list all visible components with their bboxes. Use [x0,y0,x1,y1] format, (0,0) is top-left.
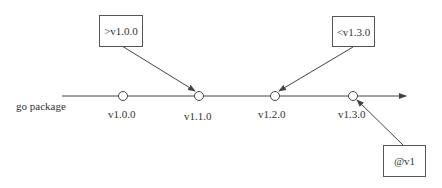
version-label: v1.0.0 [108,108,136,120]
version-label: v1.3.0 [338,108,366,120]
constraint-box-at: @v1 [383,145,426,177]
arrow-at-v1 [357,100,403,145]
arrow-gt-v1.0.0 [122,46,195,91]
timeline-label: go package [16,100,66,112]
version-node-v1.1.0 [195,92,204,101]
timeline-diagram [0,0,442,188]
constraint-box-lt: <v1.3.0 [332,16,375,47]
arrow-lt-v1.3.0 [279,47,353,91]
constraint-box-gt: >v1.0.0 [99,15,143,47]
version-label: v1.2.0 [258,108,286,120]
version-node-v1.3.0 [349,92,358,101]
version-node-v1.2.0 [271,92,280,101]
version-node-v1.0.0 [119,92,128,101]
version-label: v1.1.0 [184,110,212,122]
